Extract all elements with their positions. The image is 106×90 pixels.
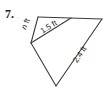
triangle-figure: n ft1.5 ft2.4 ft bbox=[0, 0, 106, 90]
worksheet-problem: 7. n ft1.5 ft2.4 ft bbox=[0, 0, 106, 90]
lower-left-edge bbox=[31, 43, 56, 86]
label-1-5-ft: 1.5 ft bbox=[39, 18, 60, 35]
label-2-4-ft: 2.4 ft bbox=[71, 44, 89, 64]
label-n-ft: n ft bbox=[19, 16, 32, 31]
